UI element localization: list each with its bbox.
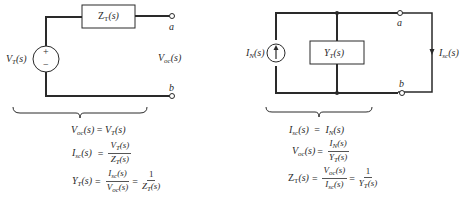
norton-source-label: IN(s): [246, 48, 265, 60]
thevenin-eq-isc: Isc(s) = VT(s) ZT(s): [72, 141, 133, 166]
terminal-a-label: a: [169, 22, 174, 32]
terminal-a: [170, 14, 175, 19]
terminal-b: [170, 94, 175, 99]
norton-eq-voc: Voc(s) = IN(s) YT(s): [292, 139, 351, 164]
plus-sign: +: [43, 47, 49, 57]
isc-label: Isc(s): [439, 48, 459, 60]
norton-circuit: [266, 11, 435, 118]
norton-eq-zt: ZT(s) = Voc(s) Isc(s) = 1 YT(s): [288, 166, 381, 191]
norton-terminal-a-label: a: [397, 18, 402, 28]
terminal-a: [398, 11, 403, 16]
admittance-label: YT(s): [324, 48, 344, 60]
norton-terminal-b-label: b: [399, 79, 404, 89]
minus-sign: −: [43, 60, 49, 70]
impedance-label: ZT(s): [98, 11, 119, 23]
terminal-b: [400, 91, 405, 96]
voc-label: Voc(s): [158, 53, 181, 65]
thevenin-eq-voc: Voc(s) = VT(s): [71, 125, 126, 137]
source-label: VT(s): [6, 54, 27, 66]
thevenin-eq-yt: YT(s) = Isc(s) Voc(s) = 1 ZT(s): [72, 169, 164, 194]
thevenin-circuit: [13, 5, 175, 118]
norton-eq-isc: Isc(s) = IN(s): [289, 125, 344, 137]
circuit-diagrams: [0, 0, 463, 199]
terminal-b-label: b: [169, 83, 174, 93]
